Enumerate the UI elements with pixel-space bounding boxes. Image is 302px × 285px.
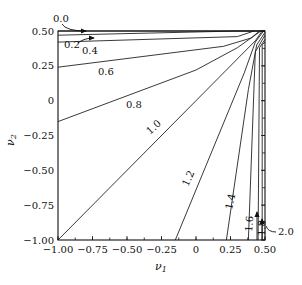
y-tick-label: 0.50 bbox=[32, 26, 54, 37]
contour-label: 0.4 bbox=[82, 45, 98, 56]
x-tick-label: 0.50 bbox=[254, 244, 276, 255]
x-tick-label: 0.25 bbox=[219, 244, 241, 255]
contour-line bbox=[258, 39, 265, 240]
y-tick-label: 0.25 bbox=[32, 60, 54, 71]
contour-line bbox=[58, 31, 265, 35]
contour-label: 1.4 bbox=[223, 193, 237, 211]
contour-chart: −1.00−0.75−0.50−0.2500.250.50 −1.00−0.75… bbox=[0, 0, 302, 285]
contour-labels: 0.20.40.60.81.01.21.41.61.8 bbox=[64, 39, 268, 236]
x-tick-label: −0.50 bbox=[112, 244, 143, 255]
contour-label: 0.6 bbox=[98, 66, 114, 77]
y-tick-label: −0.50 bbox=[23, 165, 54, 176]
y-axis-label: ν2 bbox=[4, 134, 18, 146]
x-tick-label: −1.00 bbox=[43, 244, 74, 255]
x-tick-label: −0.25 bbox=[146, 244, 177, 255]
contour-label: 0.2 bbox=[64, 39, 80, 50]
y-tick-label: −1.00 bbox=[23, 235, 54, 246]
x-axis-label: ν1 bbox=[155, 260, 167, 274]
contour-label: 1.6 bbox=[243, 215, 255, 232]
y-tick-label: −0.75 bbox=[23, 200, 54, 211]
contour-label: 0.8 bbox=[126, 99, 142, 110]
y-tick-labels: −1.00−0.75−0.50−0.2500.250.50 bbox=[23, 26, 54, 246]
annotation-label: 0.0 bbox=[53, 13, 69, 24]
y-tick-label: −0.25 bbox=[23, 130, 54, 141]
contour-line bbox=[175, 31, 263, 240]
y-tick-label: 0 bbox=[48, 95, 54, 106]
x-tick-labels: −1.00−0.75−0.50−0.2500.250.50 bbox=[43, 244, 276, 255]
contour-label: 1.0 bbox=[144, 118, 163, 137]
x-tick-label: 0 bbox=[193, 244, 199, 255]
contour-label: 1.2 bbox=[180, 169, 197, 188]
x-tick-label: −0.75 bbox=[77, 244, 108, 255]
annotation-label: 2.0 bbox=[278, 226, 294, 237]
